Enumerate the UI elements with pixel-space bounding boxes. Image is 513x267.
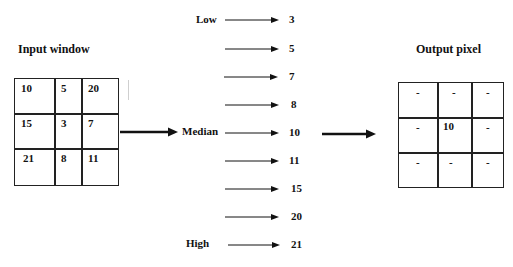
- sorted-value: 8: [291, 98, 297, 110]
- output-cell: -: [416, 86, 420, 98]
- output-cell: -: [486, 86, 490, 98]
- sorted-value: 7: [289, 70, 295, 82]
- output-cell: -: [486, 121, 490, 133]
- arrow-right-icon: [228, 240, 284, 250]
- output-cell: -: [449, 156, 453, 168]
- arrow-right-icon: [322, 128, 380, 140]
- arrow-right-icon: [225, 128, 281, 138]
- output-pixel-title: Output pixel: [416, 42, 481, 57]
- high-label: High: [186, 237, 209, 249]
- input-cell: 20: [88, 82, 99, 94]
- output-cell: -: [452, 86, 456, 98]
- output-cell-median: 10: [443, 120, 454, 132]
- arrow-right-icon: [225, 15, 281, 25]
- output-cell: -: [416, 121, 420, 133]
- input-cell: 3: [61, 117, 67, 129]
- sorted-value: 5: [289, 42, 295, 54]
- median-value: 10: [289, 126, 300, 138]
- arrow-right-icon: [225, 184, 281, 194]
- input-window-grid: 10 5 20 15 3 7 21 8 11: [14, 78, 119, 186]
- input-window-title: Input window: [18, 42, 90, 57]
- sorted-value: 3: [289, 13, 295, 25]
- median-label: Median: [182, 125, 218, 137]
- output-cell: -: [486, 156, 490, 168]
- output-cell: -: [416, 156, 420, 168]
- scan-artifact: [128, 80, 129, 100]
- sorted-value: 15: [291, 182, 302, 194]
- low-label: Low: [196, 13, 217, 25]
- input-cell: 10: [21, 82, 32, 94]
- arrow-right-icon: [225, 156, 281, 166]
- arrow-right-icon: [224, 72, 280, 82]
- arrow-right-icon: [225, 100, 281, 110]
- sorted-value: 11: [289, 154, 299, 166]
- input-cell: 21: [23, 152, 34, 164]
- arrow-right-icon: [225, 44, 281, 54]
- input-cell: 8: [61, 152, 67, 164]
- sorted-value: 20: [291, 210, 302, 222]
- arrow-right-icon: [120, 126, 180, 138]
- output-pixel-grid: - - - - 10 - - - -: [398, 82, 504, 188]
- arrow-right-icon: [225, 212, 281, 222]
- input-cell: 7: [88, 117, 94, 129]
- input-cell: 15: [21, 117, 32, 129]
- input-cell: 11: [88, 152, 98, 164]
- input-cell: 5: [61, 82, 67, 94]
- sorted-value: 21: [291, 238, 302, 250]
